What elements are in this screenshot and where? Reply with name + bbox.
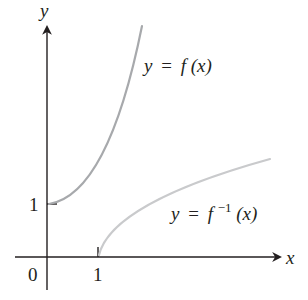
curve-f-inverse-label-eq: =	[188, 203, 199, 224]
y-axis-label: y	[38, 0, 49, 21]
curve-f-inverse-label-fn: f	[208, 203, 216, 224]
curve-f-inverse-label-arg: (x)	[236, 203, 257, 225]
curve-f-inverse-label: y = f −1 (x)	[169, 195, 257, 225]
curve-f-label-eq: =	[161, 55, 172, 76]
y-tick-label-1: 1	[29, 194, 39, 215]
curve-f-inverse-label-lhs: y	[169, 203, 180, 224]
x-axis-label: x	[285, 247, 295, 268]
curve-f-label-fn: f	[181, 55, 189, 76]
curve-f-label: y = f (x)	[142, 55, 212, 77]
curve-f-label-lhs: y	[142, 55, 153, 76]
x-tick-label-1: 1	[93, 264, 103, 285]
origin-label: 0	[28, 264, 38, 285]
curve-f-label-arg: (x)	[191, 55, 212, 77]
graph-canvas: y x 0 1 1 y = f (x) y = f −1 (x)	[0, 0, 308, 300]
curve-f	[49, 26, 142, 204]
curve-f-inverse-label-sup: −1	[218, 200, 232, 215]
